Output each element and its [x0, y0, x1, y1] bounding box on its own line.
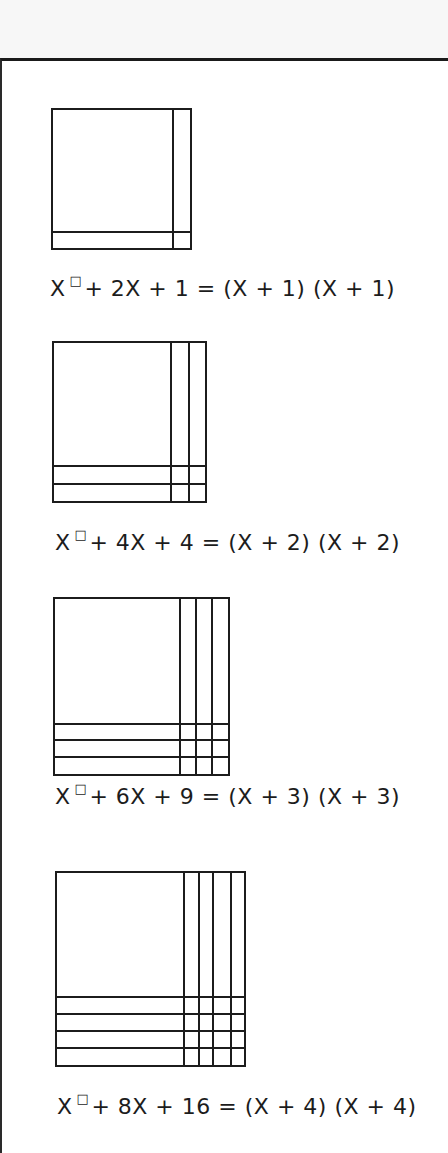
exponent-placeholder-glyph: □ — [77, 1091, 90, 1106]
algebra-tile-square — [52, 341, 207, 503]
exponent-placeholder-glyph: □ — [70, 273, 83, 288]
equation-equals: = — [202, 530, 221, 555]
equation-rhs: (X + 2) (X + 2) — [228, 530, 400, 555]
equation-x-term: X — [50, 276, 66, 301]
factoring-equation: X□+ 6X + 9 = (X + 3) (X + 3) — [55, 784, 400, 813]
algebra-tile-square — [51, 108, 192, 250]
exponent-placeholder-glyph: □ — [75, 781, 88, 796]
factoring-equation: X□+ 4X + 4 = (X + 2) (X + 2) — [55, 530, 400, 559]
equation-x-term: X — [57, 1094, 73, 1119]
exponent-placeholder-glyph: □ — [75, 527, 88, 542]
equation-rhs: (X + 1) (X + 1) — [223, 276, 395, 301]
equation-x-term: X — [55, 784, 71, 809]
equation-lhs-rest: + 6X + 9 — [89, 784, 194, 809]
equation-equals: = — [197, 276, 216, 301]
equation-lhs-rest: + 8X + 16 — [91, 1094, 210, 1119]
top-margin-band — [0, 0, 448, 58]
equation-lhs-rest: + 4X + 4 — [89, 530, 194, 555]
factoring-equation: X□+ 8X + 16 = (X + 4) (X + 4) — [57, 1094, 417, 1123]
equation-rhs: (X + 4) (X + 4) — [245, 1094, 417, 1119]
outer-square-outline — [54, 598, 229, 775]
equation-equals: = — [202, 784, 221, 809]
equation-lhs-rest: + 2X + 1 — [84, 276, 189, 301]
outer-square-outline — [52, 109, 191, 249]
equation-x-term: X — [55, 530, 71, 555]
algebra-tile-square — [53, 597, 230, 776]
equation-rhs: (X + 3) (X + 3) — [228, 784, 400, 809]
outer-square-outline — [53, 342, 206, 502]
outer-square-outline — [56, 872, 245, 1066]
equation-equals: = — [218, 1094, 237, 1119]
algebra-tile-square — [55, 871, 246, 1067]
factoring-equation: X□+ 2X + 1 = (X + 1) (X + 1) — [50, 276, 395, 305]
